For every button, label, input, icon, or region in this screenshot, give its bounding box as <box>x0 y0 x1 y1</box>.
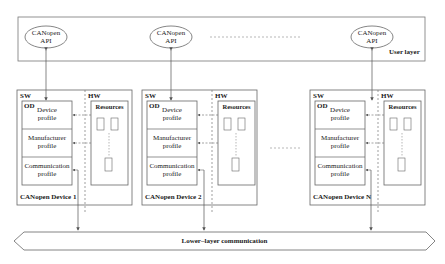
device-n-manufacturer-profile: Manufacturer profile <box>315 134 365 150</box>
api-2: CANopen API <box>150 29 192 45</box>
device-2-manufacturer-profile: Manufacturer profile <box>147 134 197 150</box>
user-layer-label: User layer <box>389 48 420 56</box>
lower-layer-label: Lower–layer communication <box>14 237 435 245</box>
device-n-resources-label: Resources <box>384 103 421 111</box>
device-n-name: CANopen Device N <box>313 193 371 201</box>
device-profile-line1: Device <box>147 106 197 114</box>
device-profile-line1: Device <box>22 106 72 114</box>
communication-profile-line2: profile <box>147 170 197 178</box>
manufacturer-profile-line1: Manufacturer <box>315 134 365 142</box>
device-1-resources-label: Resources <box>91 103 128 111</box>
communication-profile-line2: profile <box>315 170 365 178</box>
device-n-communication-profile: Communication profile <box>315 162 365 178</box>
device-2-communication-profile: Communication profile <box>147 162 197 178</box>
device-profile-line2: profile <box>147 114 197 122</box>
manufacturer-profile-line2: profile <box>22 142 72 150</box>
api-2-line1: CANopen <box>150 29 192 37</box>
device-2-resources-label: Resources <box>218 103 255 111</box>
api-2-line2: API <box>150 37 192 45</box>
manufacturer-profile-line2: profile <box>147 142 197 150</box>
device-2-hw-label: HW <box>215 92 227 100</box>
device-2-name: CANopen Device 2 <box>145 193 201 201</box>
api-n-line1: CANopen <box>351 29 393 37</box>
communication-profile-line2: profile <box>22 170 72 178</box>
api-n-line2: API <box>351 37 393 45</box>
device-n-hw-label: HW <box>381 92 393 100</box>
device-1-manufacturer-profile: Manufacturer profile <box>22 134 72 150</box>
device-2-sw-label: SW <box>145 92 156 100</box>
api-1-line2: API <box>25 37 67 45</box>
device-n-device-profile: Device profile <box>315 106 365 122</box>
device-2-device-profile: Device profile <box>147 106 197 122</box>
device-1-hw-label: HW <box>88 92 100 100</box>
device-1-device-profile: Device profile <box>22 106 72 122</box>
device-profile-line1: Device <box>315 106 365 114</box>
device-profile-line2: profile <box>315 114 365 122</box>
api-1-line1: CANopen <box>25 29 67 37</box>
device-1-communication-profile: Communication profile <box>22 162 72 178</box>
device-n-sw-label: SW <box>313 92 324 100</box>
device-1-name: CANopen Device 1 <box>20 193 76 201</box>
communication-profile-line1: Communication <box>147 162 197 170</box>
manufacturer-profile-line2: profile <box>315 142 365 150</box>
device-1-sw-label: SW <box>20 92 31 100</box>
device-profile-line2: profile <box>22 114 72 122</box>
manufacturer-profile-line1: Manufacturer <box>147 134 197 142</box>
manufacturer-profile-line1: Manufacturer <box>22 134 72 142</box>
communication-profile-line1: Communication <box>22 162 72 170</box>
communication-profile-line1: Communication <box>315 162 365 170</box>
api-1: CANopen API <box>25 29 67 45</box>
api-n: CANopen API <box>351 29 393 45</box>
